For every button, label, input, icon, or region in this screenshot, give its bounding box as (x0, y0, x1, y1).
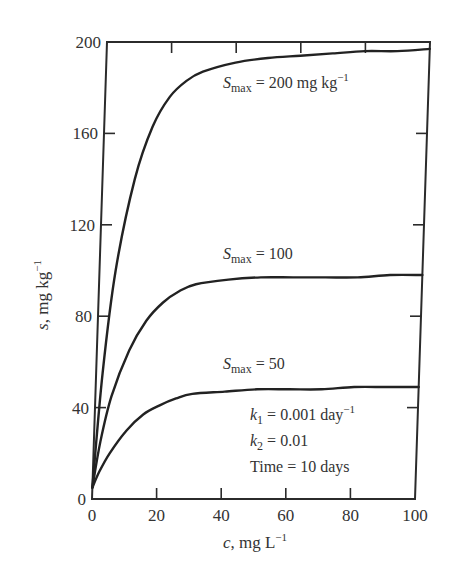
smax-200-exponent: −1 (337, 71, 349, 83)
x-tick-label: 60 (277, 506, 294, 525)
smax-100-value: = 100 (252, 245, 293, 262)
x-axis-unit: , mg L (230, 533, 275, 552)
x-tick-label: 20 (148, 506, 165, 525)
smax-50-value: = 50 (252, 355, 285, 372)
x-axis-label: c, mg L−1 (223, 531, 287, 552)
smax-200-value: = 200 mg kg (252, 74, 337, 92)
x-tick-label: 80 (342, 506, 359, 525)
y-tick-label: 80 (75, 307, 92, 326)
y-tick-label: 160 (73, 124, 99, 143)
chart: 04080120160200 020406080100 s, mg kg−1 c… (0, 0, 455, 584)
smax-symbol: S (223, 74, 231, 91)
y-tick-label: 200 (76, 33, 102, 52)
plot-area (92, 42, 430, 499)
y-axis-label: s, mg kg−1 (31, 260, 52, 330)
k2-value: = 0.01 (263, 432, 308, 449)
plot-frame (92, 42, 430, 499)
x-tick-label: 100 (402, 506, 428, 525)
smax-subscript: max (231, 81, 252, 95)
annotation-time: Time = 10 days (250, 458, 350, 476)
y-tick-label: 40 (72, 399, 89, 418)
smax-subscript: max (231, 362, 252, 376)
annotation-k2: k2 = 0.01 (250, 432, 308, 453)
series-line-2 (92, 275, 422, 488)
annotation-smax-100: Smax = 100 (223, 245, 293, 266)
y-axis-exponent: −1 (31, 260, 43, 272)
annotation-smax-50: Smax = 50 (223, 355, 285, 376)
x-tick-label: 40 (213, 506, 230, 525)
annotation-k1: k1 = 0.001 day−1 (250, 403, 355, 427)
y-tick-label: 120 (70, 216, 96, 235)
smax-subscript: max (231, 252, 252, 266)
k1-value: = 0.001 day (263, 406, 343, 424)
k1-exponent: −1 (343, 403, 355, 415)
annotation-smax-200: Smax = 200 mg kg−1 (223, 71, 349, 95)
x-axis-exponent: −1 (275, 531, 287, 543)
smax-symbol: S (223, 355, 231, 372)
y-axis-unit: , mg kg (33, 271, 52, 323)
y-tick-label: 0 (78, 490, 87, 509)
smax-symbol: S (223, 245, 231, 262)
x-tick-label: 0 (88, 506, 97, 525)
x-tick-labels: 020406080100 (88, 506, 428, 525)
